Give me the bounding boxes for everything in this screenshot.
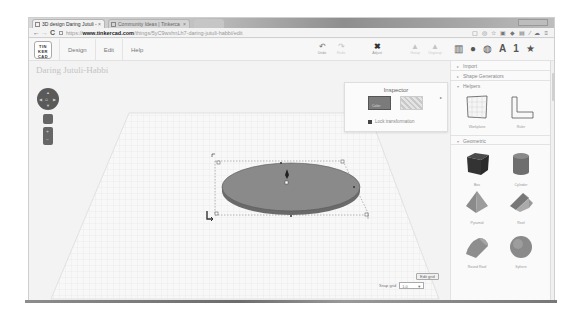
inspector-title: Inspector bbox=[345, 87, 447, 93]
section-label: Geometric bbox=[463, 138, 486, 144]
window-controls[interactable] bbox=[518, 19, 548, 26]
star-icon[interactable]: ☆ bbox=[491, 29, 496, 37]
text-letters-icon[interactable]: A bbox=[499, 42, 506, 56]
orbit-left-icon[interactable]: ◀ bbox=[39, 97, 42, 102]
menu-edit[interactable]: Edit bbox=[95, 39, 122, 61]
menu-design[interactable]: Design bbox=[59, 39, 95, 61]
fit-view-button[interactable] bbox=[43, 114, 53, 124]
numbers-icon[interactable]: 1 bbox=[513, 42, 519, 56]
taskbar-edge bbox=[25, 300, 557, 303]
logo-line: CAD bbox=[35, 54, 51, 59]
bookmark-page-icon[interactable]: ▢ bbox=[472, 29, 478, 37]
browser-toolbar: ← → C https://www.tinkercad.com/things/5… bbox=[29, 28, 554, 38]
snap-grid-select[interactable]: 1.0▼ bbox=[399, 282, 424, 289]
group-button[interactable]: ▲ Group bbox=[406, 42, 424, 55]
cast-icon[interactable]: ◎ bbox=[482, 29, 487, 37]
menu-icon[interactable]: ≡ bbox=[544, 29, 548, 37]
evernote-icon[interactable]: ◆ bbox=[510, 29, 515, 37]
adjust-icon: ✖ bbox=[368, 42, 386, 51]
shape-round-roof[interactable]: Round Roof bbox=[457, 234, 497, 269]
address-bar[interactable]: https://www.tinkercad.com/things/5yC9wxh… bbox=[59, 29, 469, 37]
solid-color-swatch[interactable]: Color bbox=[368, 96, 391, 110]
lock-transformation-toggle[interactable]: Lock transformation bbox=[368, 119, 415, 124]
shape-label: Roof bbox=[501, 221, 541, 225]
sphere-icon bbox=[507, 234, 535, 260]
close-tab-icon[interactable]: × bbox=[183, 20, 186, 28]
solid-shapes-icon[interactable]: ● bbox=[470, 42, 476, 56]
app-header: TIN KER CAD Design Edit Help ↶ Undo ↷ Re… bbox=[29, 39, 554, 61]
hole-swatch[interactable] bbox=[400, 96, 423, 110]
section-geometric[interactable]: ▾Geometric bbox=[451, 135, 550, 145]
solid-label: Color bbox=[372, 104, 380, 108]
collapse-inspector-icon[interactable]: ▸ bbox=[440, 95, 442, 100]
edit-grid-button[interactable]: Edit grid bbox=[416, 273, 439, 280]
menu-help[interactable]: Help bbox=[122, 39, 151, 61]
pen-icon[interactable]: ⁄ bbox=[529, 29, 530, 37]
ruler-icon bbox=[506, 94, 536, 120]
extension-icon[interactable]: ▣ bbox=[500, 29, 506, 37]
ungroup-label: Ungroup bbox=[428, 51, 441, 55]
back-icon[interactable]: ← bbox=[33, 29, 40, 37]
url-scheme: https:// bbox=[66, 30, 83, 36]
shape-label: Round Roof bbox=[457, 265, 497, 269]
expand-icon: ▸ bbox=[457, 65, 459, 69]
shape-box[interactable]: Box bbox=[457, 150, 497, 187]
section-import[interactable]: ▸Import bbox=[451, 61, 550, 71]
scrollbar-thumb[interactable] bbox=[552, 73, 555, 101]
cloud-icon[interactable]: ☁ bbox=[534, 29, 540, 37]
undo-label: Undo bbox=[318, 51, 326, 55]
tinkercad-favicon-icon bbox=[35, 22, 40, 27]
orbit-down-icon[interactable]: ▼ bbox=[46, 103, 50, 108]
shape-label: Ruler bbox=[501, 125, 541, 129]
zoom-control[interactable]: + − bbox=[43, 127, 53, 145]
design-title[interactable]: Daring Jutuli-Habbi bbox=[36, 65, 108, 75]
globe-icon[interactable]: ◍ bbox=[483, 42, 492, 56]
workplane-view-icon[interactable]: ▥ bbox=[454, 42, 463, 56]
collapse-icon: ▾ bbox=[457, 140, 459, 144]
reload-icon[interactable]: C bbox=[50, 29, 55, 37]
close-tab-icon[interactable]: × bbox=[98, 20, 101, 28]
tinkercad-logo[interactable]: TIN KER CAD bbox=[34, 41, 52, 59]
section-helpers[interactable]: ▾Helpers bbox=[451, 81, 550, 91]
new-tab-button[interactable] bbox=[194, 19, 224, 28]
zoom-in-icon[interactable]: + bbox=[46, 128, 49, 134]
shape-label: Cylinder bbox=[501, 183, 541, 187]
ungroup-button[interactable]: ▲ Ungroup bbox=[426, 42, 444, 55]
roof-icon bbox=[507, 188, 535, 216]
shape-sphere[interactable]: Sphere bbox=[501, 234, 541, 269]
panel-scrollbar[interactable] bbox=[550, 61, 555, 302]
url-host: www.tinkercad.com bbox=[83, 30, 134, 36]
shape-roof[interactable]: Roof bbox=[501, 188, 541, 225]
tab-3d-design[interactable]: 3D design Daring Jutuli - × bbox=[32, 19, 105, 28]
snap-grid-control: Snap grid 1.0▼ bbox=[379, 282, 424, 289]
favorites-star-icon[interactable]: ★ bbox=[526, 42, 535, 56]
group-icon: ▲ bbox=[406, 42, 424, 51]
shape-pyramid[interactable]: Pyramid bbox=[457, 188, 497, 225]
shape-ruler[interactable]: Ruler bbox=[501, 94, 541, 129]
shape-workplane[interactable]: Workplane bbox=[457, 94, 497, 129]
adjust-label: Adjust bbox=[372, 51, 382, 55]
section-shape-generators[interactable]: ▸Shape Generators bbox=[451, 71, 550, 81]
lock-label: Lock transformation bbox=[375, 119, 415, 124]
workplane-icon bbox=[464, 94, 490, 120]
shapes-panel: ▸Import ▸Shape Generators ▾Helpers Workp… bbox=[450, 61, 550, 302]
shape-label: Sphere bbox=[501, 265, 541, 269]
orbit-right-icon[interactable]: ▶ bbox=[53, 97, 56, 102]
tab-community-ideas[interactable]: Community Ideas | Tinkerca × bbox=[108, 19, 190, 28]
section-label: Import bbox=[463, 63, 477, 69]
extension-icon[interactable]: ▤ bbox=[519, 29, 525, 37]
redo-button[interactable]: ↷ Redo bbox=[332, 42, 350, 55]
tab-label: 3D design Daring Jutuli - bbox=[42, 21, 97, 27]
adjust-button[interactable]: ✖ Adjust bbox=[368, 42, 386, 55]
home-view-icon[interactable]: ⌂ bbox=[45, 96, 48, 102]
orbit-control[interactable]: ▲ ◀ ▶ ▼ ⌂ bbox=[37, 88, 59, 110]
undo-button[interactable]: ↶ Undo bbox=[313, 42, 331, 55]
workplane-canvas[interactable]: ▲ ◀ ▶ ▼ ⌂ + − Inspector ▸ Color Lock tra… bbox=[29, 61, 449, 302]
padlock-icon bbox=[368, 120, 372, 124]
zoom-out-icon[interactable]: − bbox=[46, 136, 49, 142]
orbit-up-icon[interactable]: ▲ bbox=[46, 90, 50, 95]
tab-label: Community Ideas | Tinkerca bbox=[118, 21, 180, 27]
collapse-icon: ▾ bbox=[457, 85, 459, 89]
shape-cylinder[interactable]: Cylinder bbox=[501, 150, 541, 187]
forward-icon[interactable]: → bbox=[41, 29, 48, 37]
